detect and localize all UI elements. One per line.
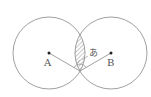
label-b: B	[107, 57, 114, 68]
center-point-a	[48, 52, 51, 55]
center-point-b	[110, 52, 113, 55]
label-a: A	[43, 57, 52, 68]
angle-label: あ	[89, 48, 98, 58]
two-circles-diagram: A B あ	[0, 0, 151, 97]
